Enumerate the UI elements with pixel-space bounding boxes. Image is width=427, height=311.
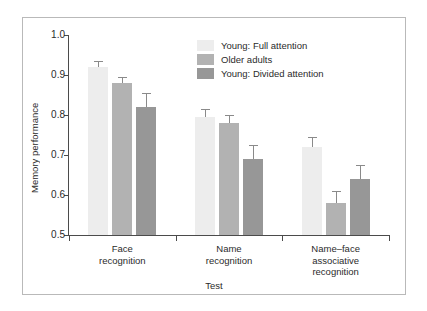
error-bar-cap — [308, 137, 317, 138]
error-bar-cap — [142, 93, 151, 94]
bar — [350, 179, 370, 235]
y-tick-label: 0.8 — [51, 108, 65, 121]
x-group-label-line: recognition — [282, 266, 389, 278]
x-axis-title: Test — [23, 280, 405, 291]
error-bar-line — [336, 191, 337, 203]
x-tick-mark — [176, 235, 177, 241]
error-bar-cap — [356, 165, 365, 166]
bar — [112, 83, 132, 235]
error-bar-cap — [249, 145, 258, 146]
figure-panel: Memory performance Test Young: Full atte… — [22, 17, 406, 295]
error-bar-line — [312, 137, 313, 147]
bar — [326, 203, 346, 235]
y-axis-line — [68, 35, 69, 236]
error-bar-cap — [332, 191, 341, 192]
error-bar-cap — [201, 109, 210, 110]
error-bar-cap — [225, 115, 234, 116]
error-bar-line — [146, 93, 147, 107]
error-bar-line — [229, 115, 230, 123]
x-axis-line — [68, 235, 390, 236]
y-axis-title: Memory performance — [29, 68, 43, 228]
error-bar-line — [360, 165, 361, 179]
x-group-label: Name–faceassociativerecognition — [282, 243, 389, 278]
x-group-label-line: recognition — [176, 255, 283, 267]
error-bar-cap — [94, 61, 103, 62]
x-group-label: Namerecognition — [176, 243, 283, 266]
error-bar-line — [205, 109, 206, 117]
y-tick-label: 0.7 — [51, 148, 65, 161]
bar — [302, 147, 322, 235]
bar — [219, 123, 239, 235]
bar — [195, 117, 215, 235]
y-tick-label: 0.9 — [51, 68, 65, 81]
y-tick-label: 0.6 — [51, 188, 65, 201]
error-bar-cap — [118, 77, 127, 78]
x-tick-mark — [69, 235, 70, 241]
error-bar-line — [253, 145, 254, 159]
x-tick-mark — [282, 235, 283, 241]
x-group-label: Facerecognition — [69, 243, 176, 266]
x-group-label-line: Face — [69, 243, 176, 255]
x-group-label-line: associative — [282, 255, 389, 267]
x-group-label-line: Name — [176, 243, 283, 255]
x-group-label-line: recognition — [69, 255, 176, 267]
x-tick-mark — [389, 235, 390, 241]
y-tick-label: 0.5 — [51, 228, 65, 241]
bar — [136, 107, 156, 235]
plot-area: 1.00.90.80.70.60.5 FacerecognitionNamere… — [69, 35, 389, 235]
bar — [88, 67, 108, 235]
bar — [243, 159, 263, 235]
y-tick-label: 1.0 — [51, 28, 65, 41]
x-group-label-line: Name–face — [282, 243, 389, 255]
